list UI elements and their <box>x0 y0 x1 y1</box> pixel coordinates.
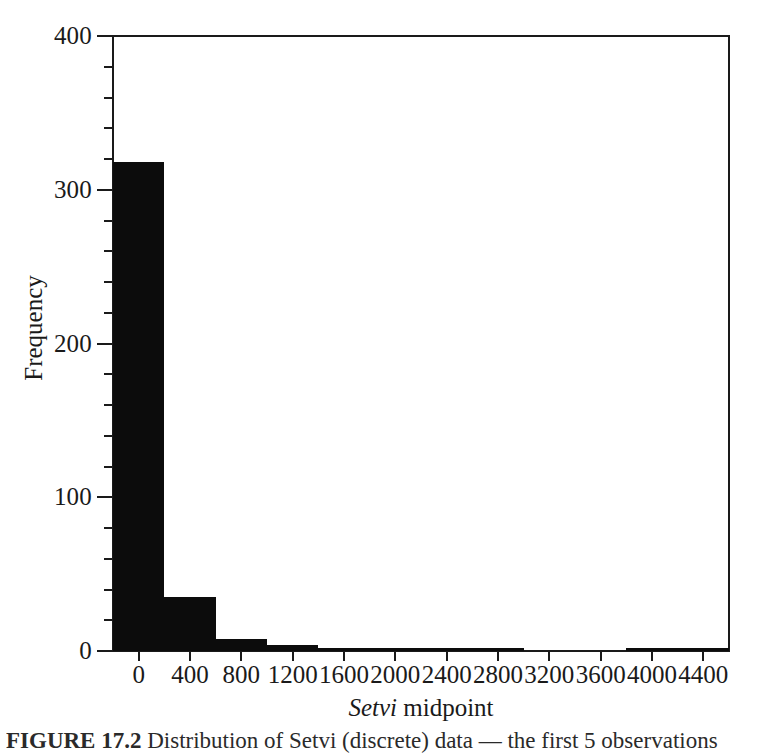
histogram-bar <box>472 648 523 651</box>
y-axis-minor-tick <box>104 527 112 529</box>
figure-caption: FIGURE 17.2 Distribution of Setvi (discr… <box>6 727 758 754</box>
y-axis-minor-tick <box>104 220 112 222</box>
y-axis-minor-tick <box>104 66 112 68</box>
y-axis-major-tick <box>97 650 112 652</box>
histogram-bar <box>421 648 472 651</box>
x-axis-title: Setvi midpoint <box>112 694 730 722</box>
y-axis-minor-tick <box>104 158 112 160</box>
y-axis-major-tick <box>97 189 112 191</box>
y-axis-minor-tick <box>104 435 112 437</box>
y-axis-tick-label: 200 <box>54 331 92 356</box>
figure-caption-label: FIGURE 17.2 <box>6 728 141 753</box>
y-axis-minor-tick <box>104 312 112 314</box>
x-axis-title-variable: Setvi <box>348 694 397 721</box>
y-axis-tick-label: 100 <box>54 484 92 509</box>
y-axis-minor-tick <box>104 558 112 560</box>
y-axis-minor-tick <box>104 250 112 252</box>
y-axis-minor-tick <box>104 619 112 621</box>
y-axis-major-tick <box>97 496 112 498</box>
histogram-bar <box>318 648 369 651</box>
y-axis-minor-tick <box>104 589 112 591</box>
y-axis-minor-tick <box>104 466 112 468</box>
histogram-bar <box>267 645 318 651</box>
y-axis-major-tick <box>97 35 112 37</box>
y-axis-title: Frequency <box>20 228 48 428</box>
y-axis-minor-tick <box>104 373 112 375</box>
y-axis-tick-label: 300 <box>54 177 92 202</box>
histogram-bar <box>626 648 677 651</box>
x-axis-title-suffix: midpoint <box>397 694 494 721</box>
y-axis-minor-tick <box>104 404 112 406</box>
histogram-bar <box>216 639 267 651</box>
y-axis-minor-tick <box>104 281 112 283</box>
histogram-bar <box>164 597 215 651</box>
figure-caption-text: Distribution of Setvi (discrete) data — … <box>147 728 717 753</box>
histogram-bar <box>678 648 729 651</box>
y-axis-major-tick <box>97 343 112 345</box>
y-axis-tick-label: 400 <box>54 23 92 48</box>
x-axis-tick-label: 4400 <box>643 660 763 690</box>
bars-layer <box>113 36 729 651</box>
y-axis-minor-tick <box>104 127 112 129</box>
y-axis-minor-tick <box>104 97 112 99</box>
histogram-bar <box>370 648 421 651</box>
histogram-bar <box>113 162 164 651</box>
